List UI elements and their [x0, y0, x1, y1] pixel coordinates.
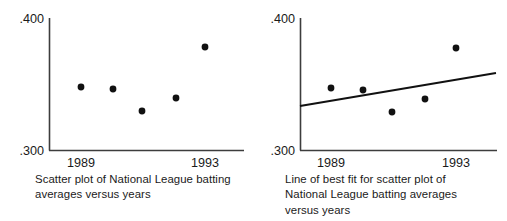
data-point	[389, 109, 396, 116]
data-point	[139, 108, 146, 115]
data-point	[422, 96, 429, 103]
scatter-plot-svg: .400 .300 1989 1993	[0, 0, 254, 168]
data-point	[110, 86, 117, 93]
figure-line-of-best-fit: .400 .300 1989 1993 Line of best fit for…	[253, 0, 507, 221]
plot-area-scatter: .400 .300 1989 1993	[0, 0, 254, 168]
data-point	[453, 45, 460, 52]
caption-line: National League batting averages	[285, 187, 500, 202]
y-tick-label-lower: .300	[19, 144, 44, 158]
data-point	[202, 44, 209, 51]
y-tick-label-upper: .400	[270, 12, 295, 26]
x-tick-label-first: 1989	[317, 156, 345, 168]
y-tick-label-lower: .300	[270, 144, 295, 158]
x-tick-label-second: 1993	[442, 156, 470, 168]
caption-line: Line of best fit for scatter plot of	[285, 172, 500, 187]
figure-caption-best-fit: Line of best fit for scatter plot of Nat…	[285, 172, 500, 218]
x-tick-label-first: 1989	[67, 156, 95, 168]
data-point	[360, 87, 367, 94]
plot-area-best-fit: .400 .300 1989 1993	[253, 0, 507, 168]
figure-caption-scatter: Scatter plot of National League batting …	[35, 172, 255, 203]
x-tick-label-second: 1993	[191, 156, 219, 168]
data-point	[173, 95, 180, 102]
figure-scatter-plot: .400 .300 1989 1993 Scatter plot of Nati…	[0, 0, 254, 221]
best-fit-plot-svg: .400 .300 1989 1993	[253, 0, 507, 168]
caption-line: versus years	[285, 203, 500, 218]
y-tick-label-upper: .400	[19, 12, 44, 26]
data-point	[78, 84, 85, 91]
caption-line: Scatter plot of National League batting	[35, 172, 255, 187]
caption-line: averages versus years	[35, 187, 255, 202]
data-point	[328, 85, 335, 92]
